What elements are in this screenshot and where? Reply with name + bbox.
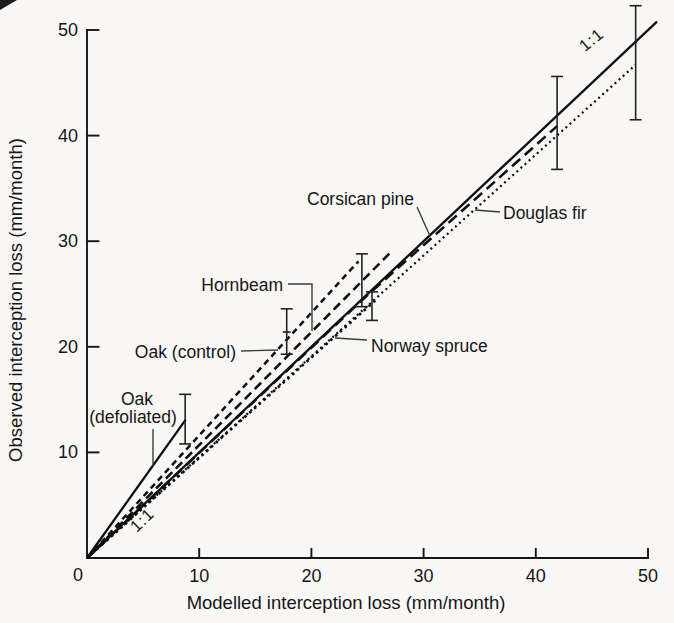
x-tick-label-30: 30	[414, 566, 434, 586]
series-douglas-fir	[87, 65, 636, 558]
x-tick-label-20: 20	[301, 566, 321, 586]
label-hornbeam: Hornbeam	[201, 275, 283, 295]
x-tick-label-10: 10	[189, 566, 209, 586]
x-tick-label-40: 40	[526, 566, 546, 586]
label-corsican-pine: Corsican pine	[307, 189, 414, 209]
y-tick-label-20: 20	[58, 337, 78, 357]
label-defoliated: (defoliated)	[89, 407, 177, 427]
leader-norway-spruce	[335, 338, 367, 340]
scan-corner-artifact	[0, 0, 17, 10]
y-tick-label-30: 30	[58, 231, 78, 251]
origin-tick-label: 0	[73, 565, 83, 585]
errorbar-corsican-pine	[551, 76, 563, 169]
y-axis-title: Observed interception loss (mm/month)	[5, 138, 26, 462]
interception-loss-scatter-chart: 102030405010203040500Modelled intercepti…	[0, 0, 674, 623]
errorbar-douglas-fir	[630, 6, 642, 120]
figure-interception-loss-chart: 102030405010203040500Modelled intercepti…	[0, 0, 674, 623]
x-axis-title: Modelled interception loss (mm/month)	[187, 592, 506, 613]
label-1-1-8: 1:1	[575, 24, 606, 54]
y-tick-label-50: 50	[58, 20, 78, 40]
x-tick-label-50: 50	[638, 566, 658, 586]
y-tick-label-40: 40	[58, 126, 78, 146]
errorbar-oak-defoliated	[179, 394, 191, 444]
label-douglas-fir: Douglas fir	[503, 203, 587, 223]
leader-douglas-fir	[475, 210, 500, 212]
label-oak: Oak	[121, 389, 153, 409]
leader-corsican-pine	[417, 207, 430, 236]
y-tick-label-10: 10	[58, 442, 78, 462]
leader-oak-control	[241, 350, 278, 351]
label-norway-spruce: Norway spruce	[371, 336, 488, 356]
errorbar-oak-control	[281, 309, 293, 354]
label-oak-control: Oak (control)	[135, 342, 236, 362]
series-oak-defoliated	[87, 420, 186, 558]
